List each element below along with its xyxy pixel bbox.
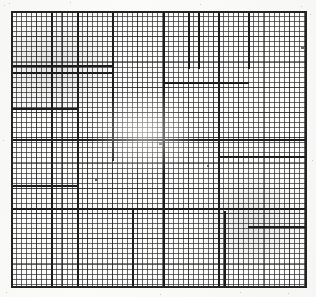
heavy-vertical-rule [112, 11, 114, 161]
heavy-vertical-rule [77, 139, 79, 288]
heavy-vertical-rule [224, 211, 226, 288]
heavy-horizontal-rule [11, 65, 112, 67]
heavy-horizontal-rule [11, 108, 77, 110]
grid-frame-top [11, 11, 307, 13]
ruled-grid-area [11, 11, 307, 288]
heavy-horizontal-rule [11, 208, 307, 210]
fine-horizontal-rules [11, 11, 307, 288]
stray-scan-mark [301, 47, 304, 49]
heavy-horizontal-rule [218, 156, 305, 158]
grid-frame-left [11, 11, 13, 288]
heavy-horizontal-rule [11, 286, 307, 288]
heavy-vertical-rule [305, 11, 307, 288]
heavy-vertical-rule [11, 11, 13, 288]
stray-scan-mark [159, 143, 162, 145]
heavy-horizontal-rule [248, 226, 305, 228]
heavy-vertical-rule [51, 11, 53, 288]
scanned-graph-paper-page [0, 0, 316, 297]
heavy-horizontal-rule [11, 11, 307, 13]
heavy-vertical-rule [198, 11, 200, 69]
heavy-vertical-rule [132, 208, 134, 288]
heavy-horizontal-rule [11, 72, 112, 74]
heavy-vertical-rule [188, 11, 190, 69]
center-highlight-wash [11, 11, 307, 288]
heavy-vertical-rule [163, 11, 165, 288]
heavy-horizontal-rule [11, 139, 307, 141]
heavy-horizontal-rule [163, 82, 249, 84]
fine-vertical-rules [11, 11, 307, 288]
stray-scan-mark [207, 165, 209, 167]
grid-frame-right [305, 11, 307, 288]
heavy-horizontal-rule [11, 185, 77, 187]
minor-horizontal-rules [11, 11, 307, 288]
minor-vertical-rules [11, 11, 307, 288]
ink-density-wash [11, 11, 307, 288]
heavy-vertical-rule [248, 11, 250, 69]
grid-frame-bottom [11, 286, 307, 288]
heavy-vertical-rule [163, 208, 165, 288]
stray-scan-mark [95, 179, 97, 181]
heavy-vertical-rule [218, 11, 220, 288]
heavy-vertical-rule [77, 11, 79, 288]
